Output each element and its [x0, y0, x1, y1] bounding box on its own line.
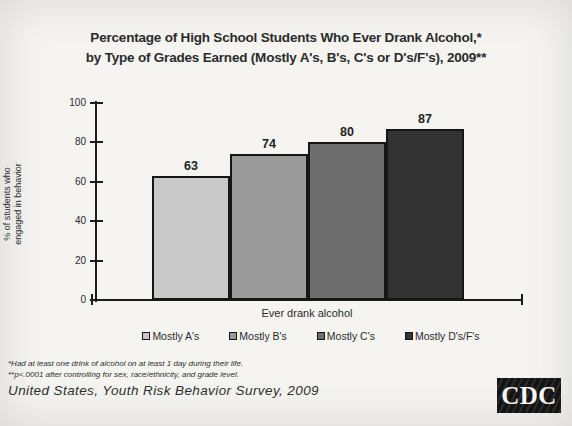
- bar-value-mostly-ds-fs: 87: [388, 112, 462, 126]
- y-tick: [90, 102, 103, 104]
- legend-label-mostly-cs: Mostly C's: [327, 330, 375, 342]
- legend-label-mostly-ds-fs: Mostly D's/F's: [415, 330, 480, 342]
- y-tick-label: 80: [58, 136, 86, 147]
- y-tick-label: 20: [58, 255, 86, 266]
- chart-title-line2: by Type of Grades Earned (Mostly A's, B'…: [36, 48, 536, 68]
- legend-item-mostly-as: Mostly A's: [142, 330, 199, 342]
- chart-title: Percentage of High School Students Who E…: [36, 28, 536, 68]
- legend-item-mostly-cs: Mostly C's: [317, 330, 375, 342]
- bar-mostly-cs: 80: [308, 142, 386, 300]
- bar-mostly-bs: 74: [230, 154, 308, 300]
- y-tick-label: 60: [58, 176, 86, 187]
- x-axis-start-tick: [91, 294, 93, 305]
- legend-item-mostly-bs: Mostly B's: [229, 330, 287, 342]
- chart-title-line1: Percentage of High School Students Who E…: [36, 28, 536, 48]
- legend-swatch-mostly-cs: [317, 332, 325, 340]
- y-axis-title-line1: % of students who: [2, 144, 13, 264]
- footnote-1: *Had at least one drink of alcohol on at…: [8, 359, 243, 370]
- cdc-logo: CDC: [497, 378, 561, 413]
- legend-swatch-mostly-ds-fs: [405, 332, 413, 340]
- legend-item-mostly-ds-fs: Mostly D's/F's: [405, 330, 480, 342]
- legend-label-mostly-bs: Mostly B's: [239, 330, 287, 342]
- y-tick: [90, 220, 103, 222]
- x-axis-label: Ever drank alcohol: [91, 307, 523, 319]
- y-tick: [90, 260, 103, 262]
- y-tick-label: 100: [58, 97, 86, 108]
- y-tick-label: 40: [58, 215, 86, 226]
- bar-mostly-ds-fs: 87: [386, 129, 464, 300]
- legend: Mostly A's Mostly B's Mostly C's Mostly …: [91, 330, 531, 342]
- y-tick: [90, 181, 103, 183]
- legend-label-mostly-as: Mostly A's: [152, 330, 199, 342]
- x-axis-end-tick: [521, 294, 523, 305]
- source-citation: United States, Youth Risk Behavior Surve…: [8, 383, 319, 398]
- y-axis-title-line2: engaged in behavior: [13, 144, 24, 264]
- bar-mostly-as: 63: [152, 176, 230, 300]
- bar-value-mostly-as: 63: [154, 159, 228, 173]
- legend-swatch-mostly-as: [142, 332, 150, 340]
- footnotes: *Had at least one drink of alcohol on at…: [8, 359, 243, 380]
- legend-swatch-mostly-bs: [229, 332, 237, 340]
- footnote-2: **p<.0001 after controlling for sex, rac…: [8, 370, 243, 381]
- cdc-logo-text: CDC: [501, 383, 557, 408]
- y-axis-title: % of students who engaged in behavior: [2, 144, 24, 264]
- bar-value-mostly-cs: 80: [310, 125, 384, 139]
- slide: Percentage of High School Students Who E…: [0, 0, 572, 426]
- y-axis: [95, 101, 97, 302]
- y-tick-label: 0: [58, 294, 86, 305]
- y-tick: [90, 141, 103, 143]
- bar-value-mostly-bs: 74: [232, 137, 306, 151]
